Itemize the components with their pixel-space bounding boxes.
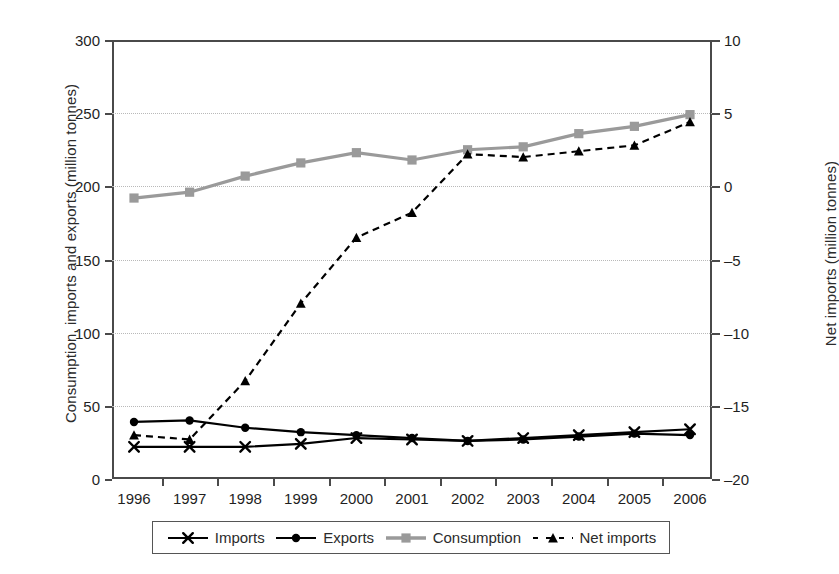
x-axis-tick-label: 1996: [117, 490, 150, 507]
series-exports: [130, 416, 694, 445]
plot-area: 050100150200250300 –20–15–10–50510 19961…: [112, 40, 712, 479]
data-point: [296, 158, 305, 167]
y-axis-right-tickmark: [712, 186, 720, 188]
x-axis-tick-label: 2001: [395, 490, 428, 507]
x-axis-tickmark: [551, 479, 553, 486]
x-axis-tick-label: 2003: [507, 490, 540, 507]
data-point: [352, 148, 361, 157]
x-marker: [166, 531, 210, 545]
y-axis-right-tick-label: –15: [724, 397, 749, 414]
x-axis-tick-label: 2005: [618, 490, 651, 507]
x-axis-tickmark: [273, 479, 275, 486]
legend-item-imports[interactable]: Imports: [166, 529, 265, 546]
chart-legend: ImportsExportsConsumptionNet imports: [152, 521, 670, 554]
data-point: [686, 431, 694, 439]
y-axis-right-tickmark: [712, 40, 720, 42]
data-point: [407, 155, 416, 164]
data-point: [130, 418, 138, 426]
legend-label: Imports: [215, 529, 265, 546]
y-axis-right-tick-label: 5: [724, 105, 732, 122]
data-point: [352, 431, 360, 439]
y-axis-left-tickmark: [105, 186, 112, 188]
y-axis-left-tickmark: [105, 406, 112, 408]
data-point: [630, 140, 640, 149]
data-point: [240, 376, 250, 385]
legend-label: Consumption: [433, 529, 521, 546]
x-axis-tick-label: 1997: [173, 490, 206, 507]
x-axis-tick-label: 2004: [562, 490, 595, 507]
x-axis-tickmark: [217, 479, 219, 486]
y-axis-right-tick-label: 0: [724, 178, 732, 195]
x-axis-tickmark: [162, 479, 164, 486]
y-axis-right-title: Net imports (million tonnes): [822, 34, 839, 474]
legend-item-exports[interactable]: Exports: [274, 529, 374, 546]
legend-item-consumption[interactable]: Consumption: [384, 529, 521, 546]
y-axis-left-tickmark: [105, 479, 112, 481]
data-point: [519, 435, 527, 443]
y-axis-right-tick-label: –10: [724, 324, 749, 341]
data-point: [630, 122, 639, 131]
y-axis-right-tickmark: [712, 479, 720, 481]
x-axis-tick-label: 2000: [340, 490, 373, 507]
series-consumption: [129, 110, 694, 203]
circle-marker: [274, 531, 318, 545]
legend-item-net-imports[interactable]: Net imports: [531, 529, 657, 546]
data-point: [297, 428, 305, 436]
x-axis-tick-label: 2006: [673, 490, 706, 507]
x-axis-tickmark: [384, 479, 386, 486]
data-point: [352, 233, 362, 242]
legend-label: Net imports: [580, 529, 657, 546]
y-axis-left-tickmark: [105, 260, 112, 262]
y-axis-left-tick-label: 100: [75, 324, 100, 341]
y-axis-right-tickmark: [712, 113, 720, 115]
data-point: [463, 437, 471, 445]
data-point: [129, 193, 138, 202]
x-axis-tickmark: [495, 479, 497, 486]
x-axis-tickmark: [329, 479, 331, 486]
x-axis-tick-label: 1998: [229, 490, 262, 507]
data-point: [407, 208, 417, 217]
x-axis-tickmark: [662, 479, 664, 486]
triangle-marker: [531, 531, 575, 545]
y-axis-left-tick-label: 300: [75, 32, 100, 49]
y-axis-right-tickmark: [712, 406, 720, 408]
y-axis-left-tickmark: [105, 40, 112, 42]
y-axis-right-tick-label: 10: [724, 32, 741, 49]
y-axis-left-tickmark: [105, 113, 112, 115]
x-axis-tickmark: [440, 479, 442, 486]
data-point: [408, 434, 416, 442]
series-net-imports: [129, 117, 695, 444]
data-point: [630, 429, 638, 437]
data-point: [185, 416, 193, 424]
data-point: [185, 188, 194, 197]
x-axis-tickmark: [607, 479, 609, 486]
x-axis-tick-label: 1999: [284, 490, 317, 507]
data-point: [575, 432, 583, 440]
series-lines: [112, 40, 712, 479]
y-axis-right-tick-label: –5: [724, 251, 741, 268]
y-axis-right-tick-label: –20: [724, 471, 749, 488]
data-point: [241, 171, 250, 180]
y-axis-right-tickmark: [712, 333, 720, 335]
y-axis-left-tick-label: 50: [83, 397, 100, 414]
data-point: [519, 142, 528, 151]
data-point: [241, 424, 249, 432]
data-point: [574, 129, 583, 138]
legend-label: Exports: [323, 529, 374, 546]
y-axis-left-tick-label: 0: [92, 471, 100, 488]
y-axis-left-tick-label: 150: [75, 251, 100, 268]
x-axis-tick-label: 2002: [451, 490, 484, 507]
y-axis-right-tickmark: [712, 260, 720, 262]
y-axis-left-tick-label: 250: [75, 105, 100, 122]
data-point: [296, 299, 306, 308]
square-marker: [384, 531, 428, 545]
y-axis-left-tick-label: 200: [75, 178, 100, 195]
y-axis-left-tickmark: [105, 333, 112, 335]
